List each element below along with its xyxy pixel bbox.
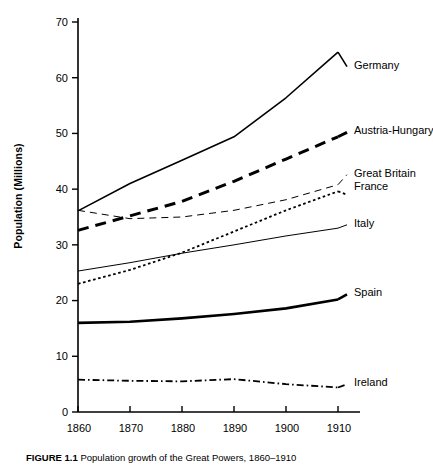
series-line-france [78, 191, 338, 283]
series-line-spain [78, 299, 338, 322]
figure-container: Population (Millions) 0 10 20 30 40 50 6… [0, 0, 433, 466]
series-line-germany [78, 52, 338, 211]
series-line-italy [78, 228, 338, 271]
figure-caption: FIGURE 1.1 Population growth of the Grea… [26, 452, 426, 465]
figure-caption-label: FIGURE 1.1 [26, 452, 78, 463]
series-line-ireland [78, 379, 338, 387]
data-series-group [78, 52, 338, 387]
axis-ticks [72, 22, 338, 412]
axis-lines [78, 18, 360, 412]
figure-caption-text: Population growth of the Great Powers, 1… [80, 452, 296, 463]
label-leader-lines [338, 52, 347, 387]
line-chart-plot [0, 0, 433, 466]
